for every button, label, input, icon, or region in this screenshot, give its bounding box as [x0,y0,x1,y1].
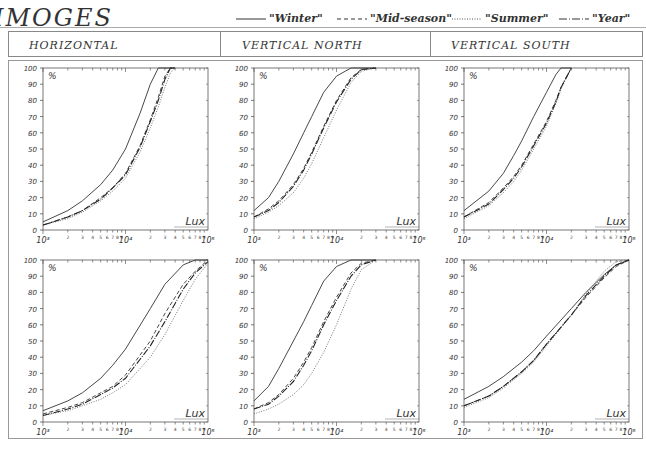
svg-text:90: 90 [28,273,37,281]
svg-text:60: 60 [239,130,248,138]
svg-text:Lux: Lux [185,215,205,228]
svg-text:100: 100 [235,257,249,265]
svg-text:30: 30 [449,178,458,186]
legend-label: "Year" [592,12,630,25]
svg-text:0: 0 [454,419,459,427]
svg-text:30: 30 [449,370,458,378]
series-line-year [254,260,376,409]
svg-text:10: 10 [449,211,458,219]
chart-panel: 0102030405060708090100%23456789234567891… [8,252,220,444]
svg-text:Lux: Lux [396,215,416,228]
series-line-summer [464,68,571,219]
series-line-summer [254,260,376,414]
series-line-year [464,68,571,217]
svg-text:0: 0 [244,419,249,427]
svg-text:4: 4 [512,427,515,432]
series-line-mid-season [464,68,571,217]
dashdot-line-icon [559,16,589,22]
svg-text:10: 10 [28,403,37,411]
svg-text:90: 90 [239,273,248,281]
svg-text:20: 20 [239,195,248,203]
chart-panel: 0102030405060708090100%23456789234567891… [219,252,431,444]
svg-text:5: 5 [393,235,396,240]
series-line-summer [43,263,208,415]
svg-text:3: 3 [163,427,166,432]
svg-text:10⁵: 10⁵ [412,428,425,437]
svg-text:5: 5 [603,427,606,432]
svg-text:70: 70 [239,114,248,122]
svg-text:2: 2 [277,235,280,240]
svg-text:100: 100 [24,257,38,265]
svg-text:4: 4 [512,235,515,240]
svg-text:20: 20 [449,387,458,395]
svg-text:10: 10 [239,211,248,219]
svg-text:6: 6 [188,427,191,432]
svg-text:10: 10 [239,403,248,411]
svg-text:10⁴: 10⁴ [119,428,133,437]
svg-text:40: 40 [239,162,248,170]
svg-text:100: 100 [445,65,459,73]
svg-text:4: 4 [302,427,305,432]
dotted-line-icon [452,16,482,22]
svg-text:3: 3 [374,235,377,240]
svg-text:10⁵: 10⁵ [622,428,635,437]
svg-text:5: 5 [182,427,185,432]
svg-text:Lux: Lux [185,407,205,420]
svg-text:30: 30 [239,370,248,378]
svg-text:70: 70 [239,306,248,314]
svg-text:%: % [469,263,478,273]
svg-text:2: 2 [149,427,152,432]
column-headers: HORIZONTAL VERTICAL NORTH VERTICAL SOUTH [8,31,643,57]
svg-text:%: % [48,263,57,273]
svg-text:3: 3 [584,235,587,240]
svg-text:40: 40 [28,354,37,362]
svg-text:4: 4 [385,427,388,432]
svg-text:80: 80 [28,97,37,105]
svg-text:3: 3 [81,235,84,240]
svg-text:10⁵: 10⁵ [201,236,214,245]
svg-text:2: 2 [570,235,573,240]
svg-text:10⁴: 10⁴ [540,428,554,437]
svg-text:%: % [259,263,268,273]
svg-text:6: 6 [527,427,530,432]
svg-text:70: 70 [28,114,37,122]
svg-text:7: 7 [194,427,197,432]
svg-text:40: 40 [239,354,248,362]
svg-text:2: 2 [487,235,490,240]
svg-text:40: 40 [449,162,458,170]
svg-text:6: 6 [399,427,402,432]
svg-text:5: 5 [603,235,606,240]
series-line-winter [254,260,376,401]
svg-text:70: 70 [28,306,37,314]
svg-text:6: 6 [527,235,530,240]
svg-text:10⁵: 10⁵ [412,236,425,245]
svg-text:90: 90 [449,81,458,89]
svg-text:100: 100 [445,257,459,265]
svg-text:50: 50 [449,146,458,154]
svg-text:4: 4 [174,235,177,240]
svg-text:7: 7 [532,235,535,240]
svg-text:4: 4 [385,235,388,240]
svg-text:6: 6 [106,235,109,240]
svg-text:10⁴: 10⁴ [330,428,344,437]
svg-text:10⁵: 10⁵ [622,236,635,245]
svg-text:4: 4 [302,235,305,240]
svg-text:7: 7 [405,427,408,432]
svg-text:2: 2 [149,235,152,240]
svg-text:0: 0 [244,227,249,235]
svg-text:60: 60 [239,322,248,330]
svg-text:5: 5 [182,235,185,240]
svg-text:80: 80 [449,97,458,105]
series-line-winter [43,68,175,222]
svg-text:3: 3 [584,427,587,432]
svg-text:2: 2 [66,235,69,240]
svg-text:30: 30 [239,178,248,186]
column-header-vertical-north: VERTICAL NORTH [220,32,430,56]
svg-text:90: 90 [239,81,248,89]
svg-text:6: 6 [609,427,612,432]
chart-panel: 0102030405060708090100%23456789234567891… [8,60,220,252]
svg-text:10³: 10³ [247,428,260,437]
svg-text:10⁵: 10⁵ [201,428,214,437]
svg-text:7: 7 [615,235,618,240]
svg-text:5: 5 [393,427,396,432]
